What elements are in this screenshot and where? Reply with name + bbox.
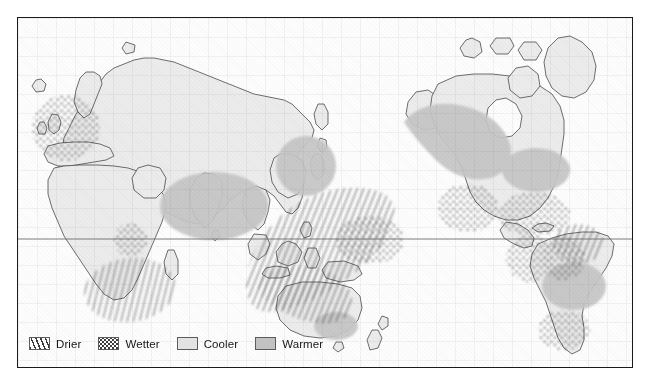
wetter-northern-europe (32, 95, 100, 161)
legend-item-drier: Drier (29, 337, 81, 350)
legend-label-wetter: Wetter (125, 338, 159, 350)
legend-label-cooler: Cooler (204, 338, 238, 350)
map-legend: Drier Wetter Cooler Warmer (29, 337, 340, 350)
warmer-swatch-icon (255, 337, 276, 350)
legend-item-wetter: Wetter (98, 337, 159, 350)
legend-item-warmer: Warmer (255, 337, 323, 350)
wetter-southern-south-america (538, 310, 590, 350)
warmer-northeast-north-america (502, 148, 570, 192)
wetter-west-south-america (541, 236, 585, 280)
wetter-central-pacific (336, 216, 404, 264)
world-map-graphic (18, 18, 632, 367)
map-frame (17, 17, 633, 368)
wetter-southeast-usa (498, 192, 570, 236)
drier-swatch-icon (29, 337, 50, 350)
climate-anomaly-map-figure: Drier Wetter Cooler Warmer (0, 0, 651, 384)
legend-item-cooler: Cooler (177, 337, 238, 350)
wetter-east-africa (114, 223, 148, 257)
wetter-southwest-usa (438, 184, 498, 232)
wetter-swatch-icon (98, 337, 119, 350)
legend-label-warmer: Warmer (282, 338, 323, 350)
warmer-india-sea (160, 172, 268, 240)
legend-label-drier: Drier (56, 338, 81, 350)
warmer-japan-korea (276, 136, 336, 196)
cooler-swatch-icon (177, 337, 198, 350)
